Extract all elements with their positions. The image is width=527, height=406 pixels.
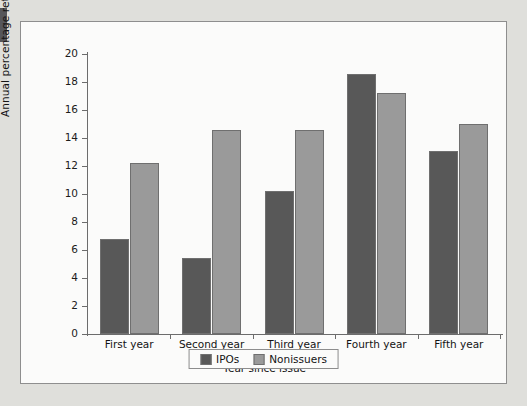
y-axis-tick-label: 16: [65, 103, 78, 116]
y-axis-title: Annual percentage return: [0, 0, 11, 117]
y-axis-tick-label: 12: [65, 159, 78, 172]
page-background: Annual percentage return Year since issu…: [0, 0, 527, 406]
y-axis-tick-label: 10: [65, 187, 78, 200]
bar-group: Second year: [182, 54, 241, 334]
x-axis-tick: [335, 334, 336, 339]
y-axis-tick-label: 6: [71, 243, 78, 256]
x-axis-tick: [253, 334, 254, 339]
legend-swatch-ipos: [200, 354, 211, 365]
legend-label-nonissuers: Nonissuers: [269, 353, 327, 365]
y-axis-tick-label: 2: [71, 299, 78, 312]
plot-area: First yearSecond yearThird yearFourth ye…: [88, 54, 500, 334]
chart-panel: Annual percentage return Year since issu…: [20, 21, 507, 384]
legend-entry-ipos: IPOs: [200, 353, 239, 365]
x-axis-tick-label: First year: [105, 338, 154, 350]
legend-swatch-nonissuers: [253, 354, 264, 365]
bar-nonissuers: [459, 124, 488, 334]
bar-nonissuers: [377, 93, 406, 334]
bar-ipos: [265, 191, 294, 334]
legend-entry-nonissuers: Nonissuers: [253, 353, 327, 365]
y-axis-tick-label: 4: [71, 271, 78, 284]
x-axis-tick-label: Fourth year: [346, 338, 407, 350]
bar-group: First year: [100, 54, 159, 334]
bar-group: Fifth year: [429, 54, 488, 334]
y-axis-tick-label: 8: [71, 215, 78, 228]
x-axis-tick: [500, 334, 501, 339]
y-axis-tick-label: 0: [71, 327, 78, 340]
y-axis-tick: 0: [82, 334, 88, 335]
chart-legend: IPOs Nonissuers: [188, 349, 339, 369]
x-axis-line: [87, 334, 503, 335]
bar-group: Fourth year: [347, 54, 406, 334]
bar-ipos: [347, 74, 376, 334]
x-axis-tick: [170, 334, 171, 339]
bar-nonissuers: [130, 163, 159, 334]
y-axis-tick-label: 20: [65, 47, 78, 60]
bar-ipos: [182, 258, 211, 334]
bar-nonissuers: [295, 130, 324, 334]
bar-ipos: [100, 239, 129, 334]
bar-nonissuers: [212, 130, 241, 334]
x-axis-tick: [418, 334, 419, 339]
x-axis-tick-label: Fifth year: [434, 338, 483, 350]
y-axis-tick-label: 14: [65, 131, 78, 144]
y-axis-tick-label: 18: [65, 75, 78, 88]
legend-label-ipos: IPOs: [216, 353, 239, 365]
bar-group: Third year: [265, 54, 324, 334]
bar-ipos: [429, 151, 458, 334]
